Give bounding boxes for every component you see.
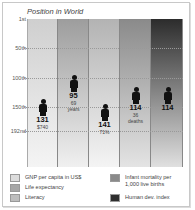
marker-infant-mortality: 114 36 deaths <box>120 87 151 124</box>
person-icon <box>100 104 110 121</box>
sub-value: 71% <box>89 129 120 135</box>
y-tick-192nd: 192nd <box>2 128 26 134</box>
person-icon <box>38 99 48 116</box>
legend-swatch <box>110 174 120 182</box>
gridline-100th <box>24 78 183 79</box>
person-icon <box>131 87 141 104</box>
person-icon <box>69 75 79 92</box>
marker-human-dev-index: 114 <box>152 87 183 112</box>
y-tick-50th: 50th <box>2 45 26 51</box>
legend-swatch <box>10 174 20 182</box>
sub-value-unit: years <box>58 106 89 112</box>
legend-item-literacy: Literacy <box>10 194 45 202</box>
legend-item-human-dev-index: Human dev. index <box>110 194 170 202</box>
chart-title: Position in World <box>27 7 83 16</box>
marker-literacy: 141 71% <box>89 104 120 135</box>
rank-value: 114 <box>120 104 151 112</box>
column-gnp <box>27 19 58 167</box>
y-tick-100th: 100th <box>2 75 26 81</box>
rank-value: 114 <box>152 104 183 112</box>
legend-swatch <box>10 194 20 202</box>
marker-life-expectancy: 95 69 years <box>58 75 89 112</box>
gridline-50th <box>24 48 183 49</box>
sub-value-unit: deaths <box>120 118 151 124</box>
legend-swatch <box>10 184 20 192</box>
legend-item-gnp: GNP per capita in US$ <box>10 174 81 182</box>
column-literacy <box>89 19 120 167</box>
sub-value: $740 <box>27 124 58 130</box>
legend-swatch <box>110 194 120 202</box>
rank-value: 131 <box>27 116 58 124</box>
rank-value: 141 <box>89 121 120 129</box>
rank-value: 95 <box>58 92 89 100</box>
person-icon <box>163 87 173 104</box>
y-tick-1st: 1st <box>2 16 26 22</box>
y-tick-150th: 150th <box>2 104 26 110</box>
legend-item-life-expectancy: Life expectancy <box>10 184 64 192</box>
marker-gnp: 131 $740 <box>27 99 58 130</box>
legend-item-infant-mortality: Infant mortality per 1,000 live births <box>110 174 171 187</box>
